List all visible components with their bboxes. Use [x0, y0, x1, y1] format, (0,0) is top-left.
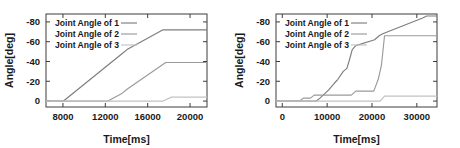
y-tick-label: -40	[256, 56, 270, 67]
x-tick-label: 12000	[92, 111, 118, 122]
legend-label-2: Joint Angle of 2	[285, 29, 349, 39]
left-chart-panel: -80-60-40-2008000120001600020000Time[ms]…	[0, 0, 230, 148]
legend: Joint Angle of 1Joint Angle of 2Joint An…	[55, 18, 137, 50]
legend-label-1: Joint Angle of 1	[285, 18, 349, 28]
x-tick-label: 20000	[359, 111, 385, 122]
x-tick-label: 16000	[134, 111, 160, 122]
y-tick-label: -80	[256, 16, 270, 27]
x-tick-label: 20000	[177, 111, 203, 122]
y-tick-label: 0	[35, 95, 40, 106]
left-chart-svg: -80-60-40-2008000120001600020000Time[ms]…	[0, 0, 230, 148]
y-tick-label: 0	[265, 95, 270, 106]
legend-label-3: Joint Angle of 3	[55, 40, 119, 50]
right-chart-svg: -80-60-40-2000100002000030000Time[ms]Ang…	[230, 0, 460, 148]
x-axis-title: Time[ms]	[103, 133, 150, 145]
y-tick-label: -20	[26, 76, 40, 87]
x-tick-label: 10000	[314, 111, 340, 122]
y-tick-label: -80	[26, 16, 40, 27]
legend-label-1: Joint Angle of 1	[55, 18, 119, 28]
legend: Joint Angle of 1Joint Angle of 2Joint An…	[285, 18, 367, 50]
x-tick-label: 0	[280, 111, 285, 122]
legend-label-3: Joint Angle of 3	[285, 40, 349, 50]
y-axis-title: Angle[deg]	[3, 33, 15, 88]
y-tick-label: -40	[26, 56, 40, 67]
x-axis-title: Time[ms]	[333, 133, 380, 145]
x-tick-label: 30000	[404, 111, 430, 122]
series-line-3	[46, 97, 207, 101]
y-tick-label: -20	[256, 76, 270, 87]
legend-label-2: Joint Angle of 2	[55, 29, 119, 39]
y-axis-title: Angle[deg]	[233, 33, 245, 88]
y-tick-label: -60	[26, 36, 40, 47]
two-panel-line-chart-figure: -80-60-40-2008000120001600020000Time[ms]…	[0, 0, 460, 148]
x-tick-label: 8000	[52, 111, 73, 122]
right-chart-panel: -80-60-40-2000100002000030000Time[ms]Ang…	[230, 0, 460, 148]
y-tick-label: -60	[256, 36, 270, 47]
